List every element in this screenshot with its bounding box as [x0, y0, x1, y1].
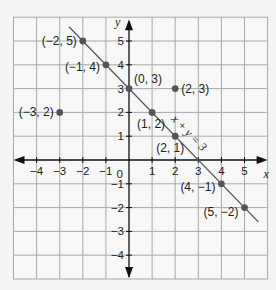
point-label: (1, 2): [137, 117, 165, 131]
point-label: (4, −1): [180, 180, 215, 194]
point-label: (−3, 2): [19, 105, 54, 119]
x-tick-label: 5: [241, 165, 247, 177]
x-tick-label: 1: [149, 165, 155, 177]
y-tick-label: 4: [118, 59, 125, 71]
y-tick-label: −4: [111, 249, 125, 261]
y-tick-label: 1: [118, 130, 124, 142]
y-tick-label: −2: [111, 202, 124, 214]
point-label: (−1, 4): [65, 60, 100, 74]
y-axis-label: y: [114, 15, 121, 29]
grid-frame: [14, 17, 268, 279]
data-point: [218, 180, 225, 187]
x-tick-label: −3: [53, 165, 66, 177]
point-label: (2, 1): [156, 141, 184, 155]
data-point: [103, 61, 110, 68]
x-tick-label: 4: [218, 165, 225, 177]
y-tick-label: −3: [111, 225, 124, 237]
x-tick-label: −1: [99, 165, 112, 177]
data-point: [56, 109, 63, 116]
data-point: [126, 85, 133, 92]
grid-lines: [14, 17, 268, 279]
data-point: [149, 109, 156, 116]
x-tick-label: 3: [195, 165, 201, 177]
origin-label: 0: [117, 168, 123, 180]
y-tick-label: 2: [118, 106, 124, 118]
point-label: (−2, 5): [42, 34, 77, 48]
x-tick-label: 2: [172, 165, 178, 177]
coordinate-plane: xy −4−3−2−112345−4−3−2−1123450 x + y = 3…: [0, 0, 276, 290]
y-tick-label: 5: [118, 35, 124, 47]
x-tick-label: −4: [30, 165, 44, 177]
x-tick-label: −2: [76, 165, 89, 177]
data-point: [241, 204, 248, 211]
point-label: (0, 3): [134, 72, 162, 86]
data-point: [172, 133, 179, 140]
y-tick-label: 3: [118, 83, 124, 95]
data-point: [172, 85, 179, 92]
point-label: (5, −2): [203, 205, 238, 219]
point-label: (2, 3): [181, 82, 209, 96]
x-axis-label: x: [263, 167, 270, 181]
data-point: [79, 38, 86, 45]
